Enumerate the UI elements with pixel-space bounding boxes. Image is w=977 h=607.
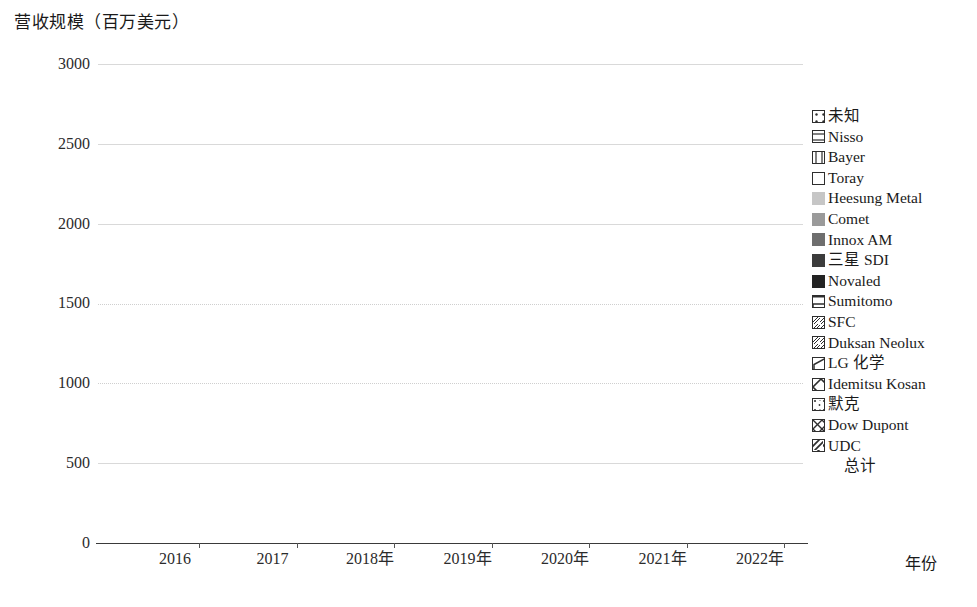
legend-swatch-icon xyxy=(812,439,825,452)
y-tick-label: 2500 xyxy=(34,136,90,152)
legend-item-label: Innox AM xyxy=(828,230,892,251)
legend-item[interactable]: 总计 xyxy=(812,456,977,477)
y-tick-label: 1000 xyxy=(34,375,90,391)
x-tick-label: 2018年 xyxy=(320,550,420,568)
x-tick-label: 2020年 xyxy=(515,550,615,568)
x-tick-mark xyxy=(589,543,590,548)
y-tick-label: 500 xyxy=(34,455,90,471)
legend-swatch-placeholder xyxy=(812,460,825,473)
legend-swatch-icon xyxy=(812,192,825,205)
legend-item[interactable]: Novaled xyxy=(812,271,977,292)
legend-item-label: Sumitomo xyxy=(828,291,893,312)
gridline xyxy=(98,224,803,225)
legend-swatch-icon xyxy=(812,357,825,370)
chart-legend: 未知NissoBayerTorayHeesung MetalCometInnox… xyxy=(812,106,977,477)
legend-swatch-icon xyxy=(812,419,825,432)
x-tick-mark xyxy=(297,543,298,548)
legend-item-label: Toray xyxy=(828,168,864,189)
legend-item[interactable]: 默克 xyxy=(812,394,977,415)
legend-item[interactable]: UDC xyxy=(812,436,977,457)
legend-item[interactable]: Idemitsu Kosan xyxy=(812,374,977,395)
y-tick-label: 3000 xyxy=(34,56,90,72)
legend-item-label: 总计 xyxy=(844,456,876,477)
gridline xyxy=(98,64,803,65)
legend-item[interactable]: Toray xyxy=(812,168,977,189)
legend-swatch-icon xyxy=(812,213,825,226)
bar-stack-2016[interactable] xyxy=(151,448,199,543)
legend-item-label: 三星 SDI xyxy=(828,250,889,271)
y-axis-tick-labels: 3000 2500 2000 1500 1000 500 0 xyxy=(26,64,90,543)
legend-swatch-icon xyxy=(812,336,825,349)
chart-container: 营收规模（百万美元） 3000 2500 2000 1500 1000 500 … xyxy=(0,0,977,607)
x-tick-label: 2017 xyxy=(223,550,323,568)
legend-item-label: Heesung Metal xyxy=(828,188,922,209)
legend-item[interactable]: Comet xyxy=(812,209,977,230)
legend-item[interactable]: Innox AM xyxy=(812,230,977,251)
legend-swatch-icon xyxy=(812,316,825,329)
legend-item[interactable]: Heesung Metal xyxy=(812,188,977,209)
legend-item[interactable]: SFC xyxy=(812,312,977,333)
legend-item-label: LG 化学 xyxy=(828,353,885,374)
plot-area xyxy=(98,64,803,543)
bar-stack-2018年[interactable] xyxy=(346,373,394,543)
x-tick-label: 2022年 xyxy=(710,550,810,568)
bar-stack-2020年[interactable] xyxy=(541,294,589,543)
legend-swatch-icon xyxy=(812,398,825,411)
legend-item-label: Idemitsu Kosan xyxy=(828,374,926,395)
bar-stack-2022年[interactable] xyxy=(736,234,784,543)
legend-item-label: Dow Dupont xyxy=(828,415,909,436)
legend-item-label: Bayer xyxy=(828,147,865,168)
legend-item[interactable]: Nisso xyxy=(812,127,977,148)
legend-swatch-icon xyxy=(812,295,825,308)
legend-item-label: Duksan Neolux xyxy=(828,333,925,354)
legend-item[interactable]: LG 化学 xyxy=(812,353,977,374)
gridline xyxy=(98,304,803,306)
legend-swatch-icon xyxy=(812,275,825,288)
x-tick-label: 2021年 xyxy=(613,550,713,568)
legend-item-label: Nisso xyxy=(828,127,863,148)
legend-swatch-icon xyxy=(812,151,825,164)
legend-item-label: Comet xyxy=(828,209,869,230)
y-axis-title: 营收规模（百万美元） xyxy=(14,8,189,33)
x-tick-label: 2019年 xyxy=(418,550,518,568)
legend-swatch-icon xyxy=(812,233,825,246)
x-tick-mark xyxy=(687,543,688,548)
x-axis-line xyxy=(96,543,808,544)
x-tick-mark xyxy=(784,543,785,548)
y-tick-label: 2000 xyxy=(34,216,90,232)
legend-swatch-icon xyxy=(812,130,825,143)
x-tick-mark xyxy=(199,543,200,548)
y-tick-label: 1500 xyxy=(34,295,90,311)
legend-item-label: SFC xyxy=(828,312,856,333)
legend-swatch-icon xyxy=(812,378,825,391)
legend-item[interactable]: Bayer xyxy=(812,147,977,168)
y-tick-label: 0 xyxy=(34,535,90,551)
legend-swatch-icon xyxy=(812,172,825,185)
gridline xyxy=(98,144,803,145)
legend-swatch-icon xyxy=(812,254,825,267)
legend-item-label: 默克 xyxy=(828,394,860,415)
x-axis-title: 年份 xyxy=(905,550,937,574)
bar-stack-2017[interactable] xyxy=(249,422,297,543)
legend-item-label: UDC xyxy=(828,436,861,457)
legend-swatch-icon xyxy=(812,110,825,123)
legend-item[interactable]: 三星 SDI xyxy=(812,250,977,271)
x-tick-label: 2016 xyxy=(125,550,225,568)
legend-item[interactable]: Dow Dupont xyxy=(812,415,977,436)
legend-item[interactable]: 未知 xyxy=(812,106,977,127)
bar-stack-2019年[interactable] xyxy=(444,337,492,543)
legend-item[interactable]: Duksan Neolux xyxy=(812,333,977,354)
legend-item-label: 未知 xyxy=(828,106,860,127)
legend-item-label: Novaled xyxy=(828,271,881,292)
x-tick-mark xyxy=(492,543,493,548)
legend-item[interactable]: Sumitomo xyxy=(812,291,977,312)
x-tick-mark xyxy=(394,543,395,548)
bar-stack-2021年[interactable] xyxy=(639,258,687,543)
